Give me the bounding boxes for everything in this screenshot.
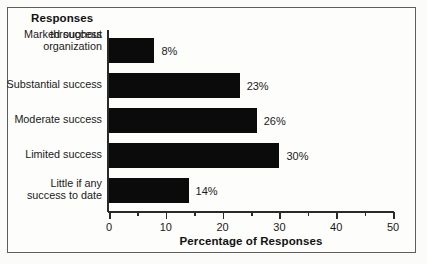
category-label-line: Substantial success — [4, 79, 102, 91]
x-axis-tick-label: 20 — [208, 221, 238, 233]
bar-data-label: 23% — [247, 80, 269, 92]
bar-series-item — [109, 143, 279, 168]
x-axis-tick — [223, 212, 225, 219]
category-label-line: Moderate success — [4, 114, 102, 126]
x-axis-tick-label: 40 — [321, 221, 351, 233]
x-axis-minor-tick — [308, 212, 310, 216]
x-axis-tick — [336, 212, 338, 219]
bar-data-label: 26% — [264, 115, 286, 127]
category-label-line: Limited success — [4, 149, 102, 161]
x-axis-tick — [393, 212, 395, 219]
legend-title: Responses — [31, 12, 93, 24]
x-axis-tick-label: 10 — [151, 221, 181, 233]
category-label-group-4: Little if any success to date — [4, 178, 102, 201]
x-axis-tick — [279, 212, 281, 219]
category-label-line: Little if any — [4, 178, 102, 190]
x-axis-tick — [109, 212, 111, 219]
x-axis-tick-label: 30 — [264, 221, 294, 233]
bar-series-item — [109, 108, 257, 133]
y-axis-line — [107, 30, 109, 212]
category-label-group-1: Substantial success — [4, 79, 102, 91]
x-axis-minor-tick — [365, 212, 367, 216]
bar-series-item — [109, 178, 189, 203]
bar-series-item — [109, 73, 240, 98]
x-axis-minor-tick — [194, 212, 196, 216]
bar-chart-figure: Responses Marked success throughout orga… — [0, 0, 427, 264]
category-label-line: organization — [4, 41, 102, 53]
x-axis-tick-label: 0 — [94, 221, 124, 233]
category-label-group-2: Moderate success — [4, 114, 102, 126]
bar-data-label: 14% — [196, 185, 218, 197]
x-axis-tick-label: 50 — [378, 221, 408, 233]
category-label-line: throughout — [4, 29, 102, 41]
category-label-line: success to date — [4, 190, 102, 202]
x-axis-title: Percentage of Responses — [108, 235, 394, 247]
bar-series-item — [109, 38, 154, 63]
category-label-group-3: Limited success — [4, 149, 102, 161]
bar-data-label: 8% — [161, 45, 177, 57]
category-label-group-0: Marked success throughout organization — [4, 29, 102, 52]
bar-data-label: 30% — [286, 150, 308, 162]
x-axis-minor-tick — [251, 212, 253, 216]
x-axis-tick — [166, 212, 168, 219]
plot-area: Responses Marked success throughout orga… — [0, 0, 427, 264]
x-axis-minor-tick — [137, 212, 139, 216]
